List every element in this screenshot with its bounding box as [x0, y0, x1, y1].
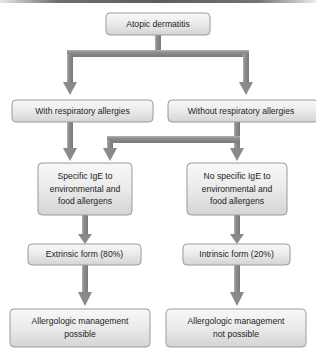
node-label-line-1: No specific IgE to — [204, 171, 271, 181]
node-label-line-1: Allergologic management — [188, 316, 286, 326]
node-label: Without respiratory allergies — [188, 106, 295, 116]
edge-specific-ige-to-extrinsic — [78, 215, 92, 244]
edge-root-split — [63, 35, 253, 95]
node-label-line-2: environmental and — [50, 184, 121, 194]
node-label-line-2: not possible — [213, 329, 259, 339]
node-label-line-2: possible — [64, 329, 96, 339]
node-allergologic-management-possible[interactable]: Allergologic management possible — [10, 309, 150, 347]
edge-extrinsic-to-management — [78, 265, 92, 306]
node-intrinsic-form[interactable]: Intrinsic form (20%) — [183, 244, 290, 265]
node-layer: Atopic dermatitis With respiratory aller… — [10, 13, 316, 347]
edge-no-specific-ige-to-intrinsic — [230, 215, 244, 244]
node-specific-ige[interactable]: Specific IgE to environmental and food a… — [38, 163, 132, 215]
node-with-respiratory-allergies[interactable]: With respiratory allergies — [12, 100, 153, 122]
edge-without-to-specific-ige — [103, 136, 240, 161]
node-allergologic-management-not-possible[interactable]: Allergologic management not possible — [166, 309, 306, 347]
node-extrinsic-form[interactable]: Extrinsic form (80%) — [28, 244, 141, 265]
node-label-line-1: Specific IgE to — [58, 171, 113, 181]
edge-with-to-specific-ige — [63, 122, 77, 161]
flowchart-canvas: Atopic dermatitis With respiratory aller… — [0, 0, 316, 357]
node-without-respiratory-allergies[interactable]: Without respiratory allergies — [168, 100, 316, 122]
node-atopic-dermatitis[interactable]: Atopic dermatitis — [106, 13, 210, 35]
node-no-specific-ige[interactable]: No specific IgE to environmental and foo… — [187, 163, 287, 215]
flowchart-figure: Atopic dermatitis With respiratory aller… — [0, 0, 316, 357]
node-label-line-3: food allergens — [210, 196, 264, 206]
node-label-line-2: environmental and — [202, 184, 273, 194]
node-label: Intrinsic form (20%) — [199, 249, 274, 259]
node-label: Atopic dermatitis — [126, 19, 190, 29]
node-label-line-3: food allergens — [58, 196, 112, 206]
node-label: With respiratory allergies — [35, 106, 130, 116]
edge-intrinsic-to-management — [230, 265, 244, 306]
node-label-line-1: Allergologic management — [32, 316, 130, 326]
node-label: Extrinsic form (80%) — [46, 249, 123, 259]
